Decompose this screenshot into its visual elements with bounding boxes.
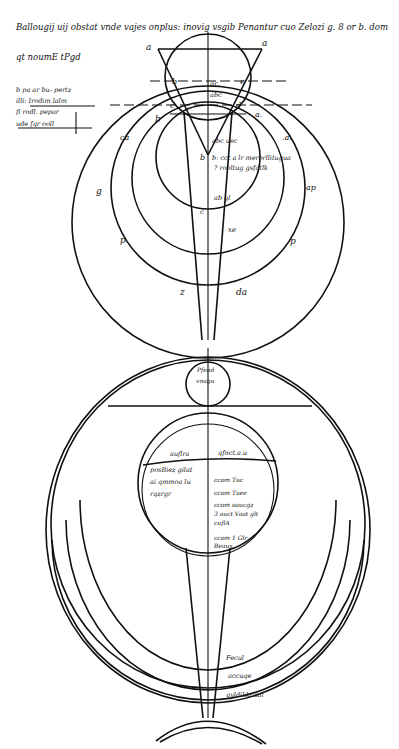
label-center: ac. — [210, 80, 220, 88]
label-c: c — [170, 101, 175, 110]
inner-note-4: ab ql — [214, 194, 230, 202]
globe-header-left: auflra — [170, 450, 190, 458]
label-mid-note: xe — [228, 226, 236, 234]
cone-left — [184, 112, 202, 340]
bottom-cone-left — [186, 548, 203, 718]
band-label-2: accuqe — [228, 672, 252, 680]
inner-note-3: ? rooltug gsfatlk — [214, 164, 268, 172]
inner-note-2: b: cct a lr merorllitugua — [212, 154, 291, 162]
label-inner-mark: abc — [210, 91, 222, 99]
inner-note-1: abc uec — [212, 137, 238, 145]
globe-header-right: qfnct.a.u — [218, 449, 247, 457]
label-b-upper: b — [172, 77, 177, 86]
globe-right-text-6: ccom 1 Glr — [214, 534, 248, 541]
globe-left-text-1: posBiez gilat — [150, 466, 193, 474]
globe-left-text-2: ai qmmoa lu — [150, 478, 191, 486]
crescent-top — [156, 721, 266, 744]
globe-right-text-2: ccom Tuee — [214, 489, 247, 496]
label-lower-left: p — [120, 235, 126, 245]
label-a-left: a — [146, 42, 151, 52]
label-b: b — [155, 114, 161, 124]
crescent-bottom — [160, 727, 262, 744]
label-ring-left: ca — [120, 133, 129, 142]
header-line-1: Ballougij uij obstat vnde vajes onplus: … — [15, 22, 388, 32]
header-line-2: qt noumE tPgd — [16, 52, 81, 62]
globe-right-text-5: cuflA — [214, 519, 230, 527]
label-a-mid: a. — [255, 110, 262, 119]
band-label-3: qyldikkcaal — [226, 691, 264, 699]
moon-text-1: Pfead — [196, 366, 214, 374]
label-e: e — [240, 77, 245, 86]
globe-right-text-4: 3 auct Vaat glt — [214, 510, 259, 518]
label-a-right: a — [262, 38, 267, 48]
label-cone-left: z — [179, 287, 185, 297]
label-lower-right: p — [290, 236, 296, 246]
globe-horizon — [143, 459, 276, 465]
globe-right-text-1: ccom Tuc — [214, 476, 244, 483]
manuscript-diagram: Ballougij uij obstat vnde vajes onplus: … — [0, 0, 399, 749]
moon-text-2: vnagu — [196, 377, 215, 385]
margin-note-1: b pa ar bu- pertz — [16, 86, 72, 94]
globe-right-text-7: Beaux — [213, 542, 233, 549]
label-outer-left: g — [96, 186, 102, 196]
label-cone-right: da — [236, 287, 247, 297]
bottom-figure: Pfead vnagu auflra qfnct.a.u posBiez gil… — [46, 348, 370, 744]
margin-note-4: ude fqr ooll — [16, 120, 54, 128]
label-outer-right: ap — [306, 183, 316, 192]
band-label-1: Fecul — [225, 654, 244, 662]
top-figure: Ballougij uij obstat vnde vajes onplus: … — [15, 22, 388, 358]
label-ring-right: .a. — [282, 133, 292, 142]
globe-right-text-3: ccom oaucgz — [214, 501, 254, 509]
margin-note-3: fi rodl. pepar — [15, 108, 60, 116]
label-bottom-inner: c — [200, 208, 204, 216]
label-d: d — [236, 101, 241, 110]
margin-note-2: illi: Irodim lalm — [16, 97, 67, 105]
label-b-apex: b — [200, 153, 205, 162]
globe-left-text-3: rqzrgr — [150, 490, 172, 498]
